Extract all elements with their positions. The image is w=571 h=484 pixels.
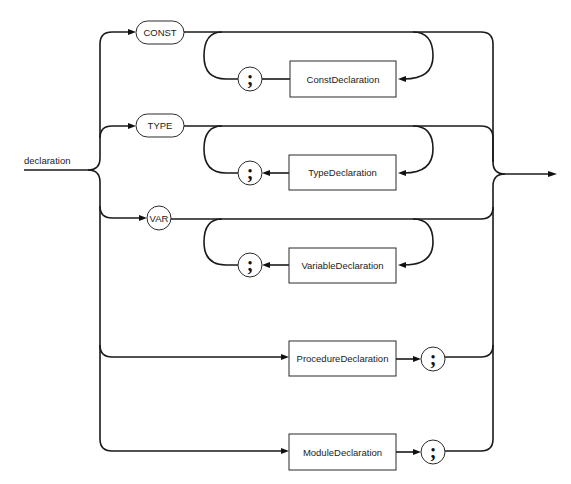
arrow-icon (281, 448, 289, 454)
arrow-icon (139, 215, 147, 221)
semicolon-label: ; (430, 440, 437, 462)
entry-label: declaration (24, 155, 70, 166)
arrow-icon (128, 123, 136, 129)
procedure-declaration-label: ProcedureDeclaration (297, 353, 389, 364)
arrow-icon (128, 29, 136, 35)
exit-arrow-icon (548, 171, 557, 177)
type-loop-right-path (404, 126, 433, 173)
const-declaration-label: ConstDeclaration (307, 74, 380, 85)
arrow-icon (398, 170, 406, 176)
const-loop-left-path (204, 32, 238, 79)
semicolon-label: ; (247, 253, 254, 275)
arrow-icon (398, 262, 406, 268)
entry-to-var-path (88, 170, 143, 218)
module-branch-path (100, 345, 285, 451)
right-trunk-path (445, 207, 493, 451)
procedure-branch-path (100, 206, 285, 357)
const-keyword-label: CONST (143, 27, 176, 38)
type-declaration-label: TypeDeclaration (308, 167, 377, 178)
semicolon-label: ; (430, 347, 437, 369)
arrow-icon (281, 354, 289, 360)
type-keyword-label: TYPE (148, 120, 173, 131)
var-keyword-label: VAR (150, 213, 169, 224)
const-loop-right-path (404, 32, 433, 79)
procedure-exit-path (445, 345, 493, 357)
arrow-icon (262, 170, 270, 176)
type-loop-left-path (204, 126, 238, 173)
const-bypass-path (184, 32, 505, 174)
semicolon-label: ; (247, 161, 254, 183)
var-loop-left-path (204, 219, 238, 265)
arrow-icon (413, 449, 421, 455)
var-loop-right-path (404, 219, 433, 265)
entry-to-const-path (24, 32, 132, 170)
syntax-diagram: declaration CONST ; ConstDeclaration TYP… (0, 0, 571, 484)
type-branch-path (100, 126, 132, 138)
arrow-icon (262, 262, 270, 268)
arrow-icon (398, 76, 406, 82)
semicolon-label: ; (247, 67, 254, 89)
arrow-icon (413, 356, 421, 362)
variable-declaration-label: VariableDeclaration (301, 260, 383, 271)
module-declaration-label: ModuleDeclaration (303, 447, 382, 458)
